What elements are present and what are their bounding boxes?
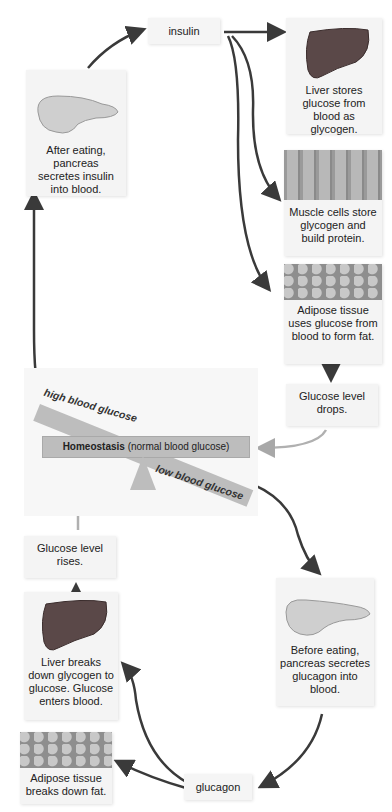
glucagon-label: glucagon bbox=[184, 774, 252, 800]
homeostasis-title: Homeostasis bbox=[63, 441, 125, 452]
homeostasis-bar: Homeostasis (normal blood glucose) bbox=[42, 436, 250, 458]
liver-stores-caption: Liver stores glucose from blood as glyco… bbox=[286, 84, 382, 136]
homeostasis-subtitle: (normal blood glucose) bbox=[128, 441, 230, 452]
liver-breaks-down-box: Liver breaks down glycogen to glucose. G… bbox=[24, 592, 118, 720]
adipose-breaks-down-box: Adipose tissue breaks down fat. bbox=[20, 732, 112, 804]
pancreas-before-eating-box: Before eating, pancreas secretes glucago… bbox=[276, 578, 374, 706]
adipose-breaks-down-caption: Adipose tissue breaks down fat. bbox=[20, 772, 112, 798]
pancreas-after-eating-box: After eating, pancreas secretes insulin … bbox=[26, 70, 126, 196]
insulin-label: insulin bbox=[148, 18, 220, 44]
adipose-form-fat-caption: Adipose tissue uses glucose from blood t… bbox=[284, 304, 382, 343]
pancreas-icon bbox=[26, 82, 126, 140]
muscle-box: Muscle cells store glycogen and build pr… bbox=[284, 150, 382, 256]
liver-stores-box: Liver stores glucose from blood as glyco… bbox=[286, 18, 382, 134]
arrow-drops-to-homeostasis bbox=[260, 430, 326, 448]
adipose-tissue-icon-2 bbox=[20, 732, 112, 768]
adipose-tissue-icon bbox=[284, 264, 382, 300]
muscle-cells-icon bbox=[284, 150, 382, 200]
arrow-low-to-pancreas bbox=[252, 484, 318, 572]
glucose-rises-box: Glucose level rises. bbox=[24, 536, 116, 578]
glucose-rises-label: Glucose level rises. bbox=[37, 542, 103, 567]
arrow-glucagon-to-liver bbox=[124, 665, 188, 783]
arrow-pancreas-to-insulin bbox=[88, 30, 142, 68]
arrow-insulin-to-adipose bbox=[228, 36, 268, 288]
muscle-caption: Muscle cells store glycogen and build pr… bbox=[284, 206, 382, 245]
liver-icon bbox=[286, 24, 382, 84]
liver-icon-2 bbox=[24, 596, 118, 656]
liver-breaks-down-caption: Liver breaks down glycogen to glucose. G… bbox=[24, 656, 118, 708]
pancreas-insulin-caption: After eating, pancreas secretes insulin … bbox=[26, 144, 126, 196]
glucose-drops-box: Glucose level drops. bbox=[286, 384, 378, 426]
arrow-pancreas-to-glucagon bbox=[262, 714, 322, 786]
adipose-form-fat-box: Adipose tissue uses glucose from blood t… bbox=[284, 264, 382, 364]
arrow-high-to-pancreas bbox=[34, 195, 40, 396]
pancreas-glucagon-caption: Before eating, pancreas secretes glucago… bbox=[276, 644, 374, 696]
glucose-drops-label: Glucose level drops. bbox=[299, 390, 365, 415]
pancreas-icon-2 bbox=[276, 590, 374, 640]
fulcrum-triangle-icon bbox=[128, 456, 158, 492]
